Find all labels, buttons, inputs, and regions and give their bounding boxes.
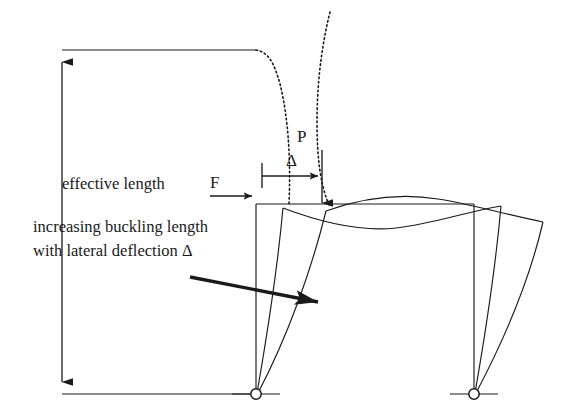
column-right-sway-intermediate [475,206,501,393]
pin-circle-left [251,389,261,399]
increasing-buckling-length-label-line2: with lateral deflection Δ [33,240,193,261]
dotted-curve-right [317,12,330,205]
axial-load-label: P [297,126,306,148]
increasing-buckling-length-label-line1: increasing buckling length [33,216,208,237]
diagram-canvas [0,0,574,420]
dotted-curve-left [256,50,290,204]
pin-support-right [450,389,498,399]
beam-sway-large [326,196,543,222]
pin-circle-right [469,389,479,399]
buckling-diagram-figure: effective length increasing buckling len… [0,0,574,420]
column-right-sway-large [476,222,543,393]
callout-arrow-icon [190,277,318,302]
frame-sway-intermediate [257,206,501,393]
beam-sway-intermediate [283,206,501,229]
effective-length-label: effective length [62,173,165,194]
frame-undeflected [256,204,474,394]
frame-sway-large [258,196,543,393]
deflection-label: Δ [286,150,297,172]
lateral-load-label: F [210,172,219,194]
column-left-sway-intermediate [257,208,283,393]
pin-support-left [232,389,280,399]
